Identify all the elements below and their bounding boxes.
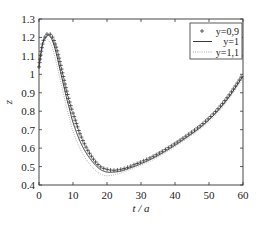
line-chart: 01020304050600.40.50.60.70.80.911.11.21.…: [0, 0, 262, 227]
x-tick-label: 30: [136, 189, 148, 201]
y-tick-label: 0.4: [21, 179, 35, 191]
y-tick-label: 1: [30, 68, 36, 80]
y-tick-label: 0.7: [21, 124, 35, 136]
x-tick-label: 50: [204, 189, 216, 201]
series-y-1-1: [39, 39, 243, 176]
y-tick-label: 1.2: [21, 31, 35, 43]
y-axis-label: z: [2, 99, 14, 105]
y-tick-label: 0.8: [21, 105, 35, 117]
y-tick-label: 1.1: [21, 50, 35, 62]
legend-label: y=1: [223, 36, 239, 47]
y-tick-label: 1.3: [21, 13, 35, 25]
x-axis-label: t / a: [132, 202, 150, 214]
x-tick-label: 40: [170, 189, 182, 201]
x-tick-label: 10: [68, 189, 80, 201]
x-tick-label: 60: [238, 189, 250, 201]
legend-label: y=1,1: [216, 47, 239, 58]
legend-label: y=0,9: [216, 26, 239, 37]
y-tick-label: 0.6: [21, 142, 35, 154]
legend: y=0,9y=1y=1,1: [190, 23, 242, 59]
y-tick-label: 0.5: [21, 161, 35, 173]
x-tick-label: 0: [36, 189, 42, 201]
y-tick-label: 0.9: [21, 87, 35, 99]
x-tick-label: 20: [102, 189, 114, 201]
